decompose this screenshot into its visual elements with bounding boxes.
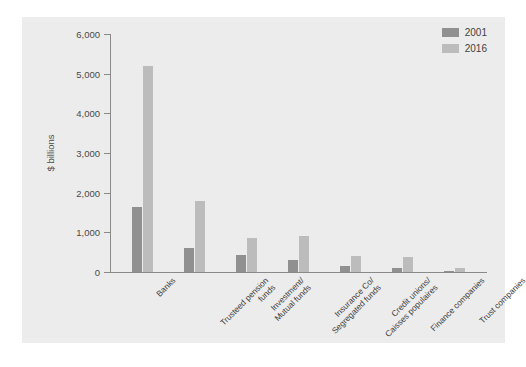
legend-swatch	[442, 28, 459, 37]
bar-2001	[236, 255, 246, 272]
x-axis-label: Credit unions/ Caisses populaires	[377, 276, 440, 339]
bar-2001	[132, 207, 142, 272]
y-axis-tick-label: 6,000	[22, 29, 100, 40]
bar-group	[444, 268, 465, 272]
legend-label: 2001	[465, 27, 487, 38]
bar-2016	[455, 268, 465, 272]
legend-swatch	[442, 44, 459, 53]
bar-group	[184, 201, 205, 272]
y-axis-tick	[104, 232, 110, 233]
bar-2001	[392, 268, 402, 272]
chart-plot-area: 01,0002,0003,0004,0005,0006,000 $ billio…	[22, 17, 505, 343]
x-axis-label: Insurance Co/ Segregated funds	[323, 276, 383, 336]
bar-2001	[288, 260, 298, 272]
bar-group	[236, 238, 257, 272]
bar-2016	[299, 236, 309, 272]
bar-group	[132, 66, 153, 272]
x-axis-line	[110, 272, 487, 273]
x-axis-label: Finance companies	[429, 276, 487, 334]
y-axis-tick-label: 1,000	[22, 227, 100, 238]
y-axis-tick	[104, 153, 110, 154]
bar-2016	[247, 238, 257, 272]
bar-group	[340, 256, 361, 272]
bar-2016	[403, 257, 413, 272]
y-axis-tick-label: 0	[22, 267, 100, 278]
y-axis-tick-label: 5,000	[22, 68, 100, 79]
legend-label: 2016	[465, 43, 487, 54]
legend-item: 2001	[442, 27, 487, 38]
bar-2016	[195, 201, 205, 272]
chart-legend: 20012016	[442, 27, 487, 59]
bar-2001	[184, 248, 194, 272]
y-axis-line	[110, 34, 111, 272]
y-axis-label: $ billions	[45, 135, 56, 172]
y-axis-tick	[104, 272, 110, 273]
y-axis-tick	[104, 34, 110, 35]
bar-group	[392, 257, 413, 272]
legend-item: 2016	[442, 43, 487, 54]
y-axis-tick-label: 4,000	[22, 108, 100, 119]
x-axis-label: Investment/ Mutual funds	[266, 276, 313, 323]
x-axis-label: Banks	[155, 276, 178, 299]
y-axis-tick	[104, 113, 110, 114]
figure-caption	[22, 350, 505, 367]
bar-2001	[340, 266, 350, 272]
y-axis-tick	[104, 74, 110, 75]
y-axis-tick-label: 3,000	[22, 148, 100, 159]
y-axis-tick-label: 2,000	[22, 187, 100, 198]
y-axis-tick	[104, 193, 110, 194]
bar-group	[288, 236, 309, 272]
bar-2016	[143, 66, 153, 272]
chart-panel: 01,0002,0003,0004,0005,0006,000 $ billio…	[22, 17, 505, 343]
bar-2016	[351, 256, 361, 272]
bar-2001	[444, 271, 454, 272]
